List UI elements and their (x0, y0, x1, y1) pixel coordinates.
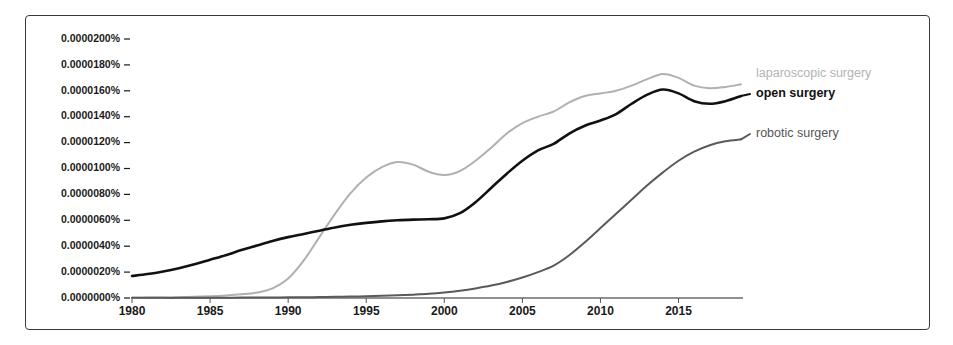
y-tick-label: 0.0000040% (61, 239, 121, 251)
y-tick-label: 0.0000080% (61, 187, 121, 199)
y-tick-label: 0.0000120% (61, 135, 121, 147)
legend-label-robotic[interactable]: robotic surgery (756, 126, 839, 140)
x-tick-label: 1995 (353, 304, 380, 318)
x-tick-label: 2005 (509, 304, 536, 318)
x-tick-label: 2010 (587, 304, 614, 318)
legend-connector (741, 134, 750, 139)
y-tick-label: 0.0000060% (61, 213, 121, 225)
x-axis: 19801985199019952000200520102015 (119, 298, 743, 318)
legend-label-laparoscopic[interactable]: laparoscopic surgery (756, 66, 872, 80)
y-tick-label: 0.0000140% (61, 109, 121, 121)
y-axis: 0.0000200%0.0000180%0.0000160%0.0000140%… (61, 32, 130, 303)
x-tick-label: 1980 (119, 304, 146, 318)
y-tick-label: 0.0000100% (61, 161, 121, 173)
y-tick-label: 0.0000020% (61, 265, 121, 277)
y-tick-label: 0.0000000% (61, 291, 121, 303)
y-tick-label: 0.0000180% (61, 58, 121, 70)
chart-canvas: 0.0000200%0.0000180%0.0000160%0.0000140%… (26, 16, 931, 331)
series-lines (132, 74, 741, 298)
chart-legend: laparoscopic surgeryopen surgeryrobotic … (741, 66, 872, 140)
x-tick-label: 2000 (431, 304, 458, 318)
series-line-laparoscopic (132, 74, 741, 298)
x-tick-label: 1985 (197, 304, 224, 318)
x-tick-label: 2015 (665, 304, 692, 318)
x-tick-label: 1990 (275, 304, 302, 318)
legend-label-open[interactable]: open surgery (756, 86, 835, 100)
y-tick-label: 0.0000200% (61, 32, 121, 44)
y-tick-label: 0.0000160% (61, 84, 121, 96)
ngram-chart-frame: 0.0000200%0.0000180%0.0000160%0.0000140%… (25, 15, 930, 330)
line-chart: 0.0000200%0.0000180%0.0000160%0.0000140%… (26, 16, 931, 331)
legend-connector (741, 94, 750, 96)
